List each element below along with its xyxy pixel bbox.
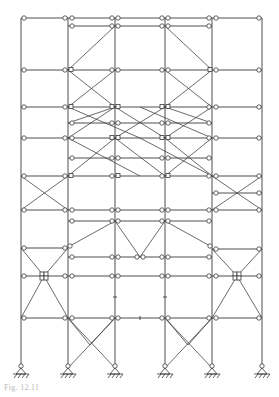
figure-caption: Fig. 12.11: [4, 383, 39, 392]
support-4: [157, 364, 173, 378]
pinned-supports: [13, 364, 270, 378]
support-3: [107, 364, 123, 378]
support-6: [254, 364, 270, 378]
support-2: [60, 364, 76, 378]
beams: [21, 18, 262, 318]
hinges: [22, 16, 261, 320]
structural-frame-diagram: [0, 0, 279, 397]
splice-ticks: [113, 297, 167, 320]
support-5: [204, 364, 220, 378]
support-1: [13, 364, 29, 378]
braces: [21, 26, 262, 368]
